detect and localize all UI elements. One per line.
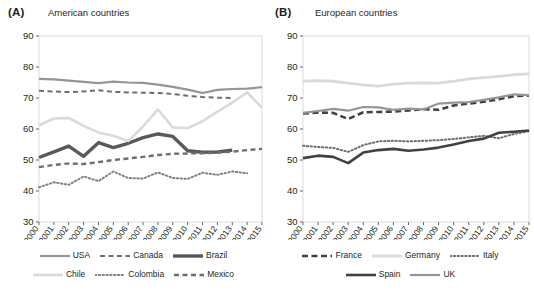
legend-label: Chile: [66, 270, 85, 279]
legend-label: Spain: [379, 270, 401, 279]
legend-swatch-icon: [174, 271, 204, 279]
legend-label: Italy: [483, 251, 499, 260]
y-axis-tick-label: 50: [23, 154, 34, 165]
legend-item-chile: Chile: [33, 270, 85, 279]
y-axis-tick-label: 40: [23, 185, 34, 196]
legend-swatch-icon: [372, 252, 402, 260]
legend-item-mexico: Mexico: [174, 270, 234, 279]
y-axis-tick-label: 80: [287, 61, 298, 72]
legend-item-colombia: Colombia: [95, 270, 164, 279]
panel-b-legend: FranceGermanyItalySpainUK: [267, 246, 534, 291]
x-axis-tick-label: 2015: [512, 224, 531, 240]
legend-label: France: [335, 251, 361, 260]
legend-item-uk: UK: [410, 270, 455, 279]
y-axis-tick-label: 80: [23, 61, 34, 72]
legend-item-canada: Canada: [100, 251, 163, 260]
legend-item-spain: Spain: [346, 270, 401, 279]
y-axis-tick-label: 90: [287, 30, 298, 41]
x-axis-tick-label: 2015: [245, 224, 264, 240]
legend-row: SpainUK: [267, 265, 534, 284]
y-axis-tick-label: 50: [287, 154, 298, 165]
legend-row: USACanadaBrazil: [0, 246, 267, 265]
legend-item-brazil: Brazil: [173, 251, 227, 260]
y-axis-tick-label: 70: [287, 92, 298, 103]
legend-label: Germany: [405, 251, 440, 260]
legend-label: Brazil: [206, 251, 227, 260]
legend-item-italy: Italy: [450, 251, 499, 260]
legend-item-france: France: [302, 251, 361, 260]
legend-label: USA: [73, 251, 90, 260]
legend-swatch-icon: [40, 252, 70, 260]
legend-swatch-icon: [302, 252, 332, 260]
panel-a-legend: USACanadaBrazilChileColombiaMexico: [0, 246, 267, 291]
legend-swatch-icon: [95, 271, 125, 279]
legend-swatch-icon: [410, 271, 440, 279]
panel-a-plot: 3040506070809020002001200220032004200520…: [0, 0, 267, 240]
legend-label: Canada: [133, 251, 163, 260]
legend-swatch-icon: [100, 252, 130, 260]
legend-swatch-icon: [450, 252, 480, 260]
legend-label: Colombia: [128, 270, 164, 279]
figure-two-panel-line-charts: (A) American countries 30405060708090200…: [0, 0, 534, 291]
legend-swatch-icon: [33, 271, 63, 279]
legend-row: ChileColombiaMexico: [0, 265, 267, 284]
panel-a-svg: 3040506070809020002001200220032004200520…: [0, 0, 267, 240]
legend-swatch-icon: [346, 271, 376, 279]
legend-item-usa: USA: [40, 251, 90, 260]
y-axis-tick-label: 40: [287, 185, 298, 196]
panel-b-svg: 3040506070809020002001200220032004200520…: [267, 0, 534, 240]
legend-item-germany: Germany: [372, 251, 440, 260]
y-axis-tick-label: 70: [23, 92, 34, 103]
y-axis-tick-label: 90: [23, 30, 34, 41]
legend-row: FranceGermanyItaly: [267, 246, 534, 265]
legend-swatch-icon: [173, 252, 203, 260]
y-axis-tick-label: 60: [23, 123, 34, 134]
legend-label: UK: [443, 270, 455, 279]
panel-b: (B) European countries 30405060708090200…: [267, 0, 534, 291]
legend-label: Mexico: [207, 270, 234, 279]
panel-a: (A) American countries 30405060708090200…: [0, 0, 267, 291]
y-axis-tick-label: 60: [287, 123, 298, 134]
panel-b-plot: 3040506070809020002001200220032004200520…: [267, 0, 534, 240]
